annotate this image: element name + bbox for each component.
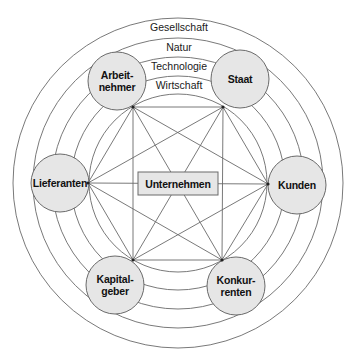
node-arbeitnehmer: Arbeit-nehmer [88, 52, 146, 110]
konkurrenten-label: renten [221, 286, 252, 298]
node-kunden: Kunden [268, 156, 326, 214]
lieferanten-label: Lieferanten [33, 177, 87, 189]
konkurrenten-vertex [220, 258, 223, 261]
edge-staat-kunden [223, 107, 268, 184]
node-konkurrenten: Konkur-renten [207, 257, 265, 315]
unternehmen-label: Unternehmen [145, 178, 210, 190]
core-unternehmen: Unternehmen [138, 172, 218, 195]
node-kapitalgeber: Kapital-geber [86, 256, 144, 314]
kunden-vertex [266, 182, 269, 185]
staat-vertex [221, 105, 224, 108]
arbeitnehmer-label: nehmer [99, 81, 136, 93]
ring-label-gesellschaft: Gesellschaft [150, 21, 208, 33]
kapitalgeber-label: geber [101, 285, 129, 297]
konkurrenten-label: Konkur- [217, 274, 257, 286]
kapitalgeber-label: Kapital- [97, 273, 135, 285]
arbeitnehmer-label: Arbeit- [101, 69, 134, 81]
ring-labels: GesellschaftNaturTechnologieWirtschaft [150, 21, 208, 91]
edge-arbeitnehmer-lieferanten [88, 107, 133, 183]
kapitalgeber-vertex [131, 258, 134, 261]
edge-kunden-konkurrenten [222, 184, 268, 260]
lieferanten-vertex [86, 181, 89, 184]
arbeitnehmer-vertex [131, 105, 134, 108]
ring-label-technologie: Technologie [151, 60, 207, 72]
node-staat: Staat [211, 50, 269, 108]
diagram-canvas: Unternehmen Arbeit-nehmerStaatLieferante… [0, 0, 355, 357]
ring-label-wirtschaft: Wirtschaft [156, 79, 203, 91]
staat-label: Staat [228, 73, 253, 85]
stakeholder-diagram: Unternehmen Arbeit-nehmerStaatLieferante… [0, 0, 355, 357]
node-lieferanten: Lieferanten [31, 154, 89, 212]
kunden-label: Kunden [278, 179, 316, 191]
ring-label-natur: Natur [166, 41, 192, 53]
edge-lieferanten-kapitalgeber [88, 183, 133, 260]
